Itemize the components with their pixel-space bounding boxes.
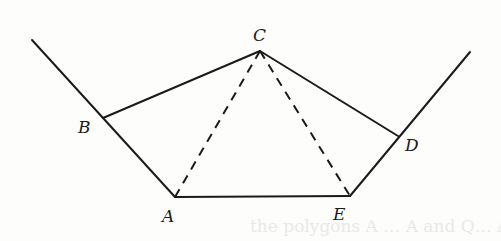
dashed-diagonal-c-a [175, 51, 260, 197]
vertex-label-c: C [253, 25, 266, 45]
segment-c-d [260, 51, 398, 136]
solid-lines [32, 40, 470, 197]
dashed-lines [175, 51, 350, 197]
segment-e-ray-right-end [350, 52, 470, 196]
segment-a-e [175, 196, 350, 197]
vertex-label-d: D [404, 135, 419, 155]
pentagon-diagram: C B D A E [0, 0, 501, 241]
vertex-label-b: B [77, 117, 91, 137]
vertex-label-a: A [160, 206, 174, 226]
bleed-through-text: the polygons A … A and Q… A, which in [250, 216, 501, 241]
segment-b-c [103, 51, 260, 118]
dashed-diagonal-c-e [260, 51, 350, 196]
bleed-through-text-content: the polygons A … A and Q… A, which in [250, 216, 501, 236]
figure-canvas: C B D A E the polygons A … A and Q… A, w… [0, 0, 501, 241]
